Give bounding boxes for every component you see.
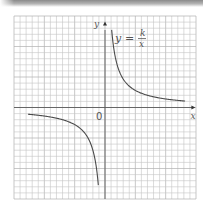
- x-axis-label: x: [191, 111, 196, 121]
- reciprocal-function-graph: y x 0 y = k x: [0, 0, 203, 208]
- axes: [14, 22, 195, 199]
- equation-lhs: y: [114, 32, 122, 45]
- equation-label: y = k x: [114, 28, 146, 49]
- equation-denominator: x: [139, 39, 144, 49]
- equation-numerator: k: [140, 28, 145, 38]
- y-axis-label: y: [93, 19, 100, 29]
- origin-label: 0: [96, 111, 102, 122]
- x-axis-arrow-icon: [191, 106, 195, 110]
- equation-equals: =: [125, 32, 134, 45]
